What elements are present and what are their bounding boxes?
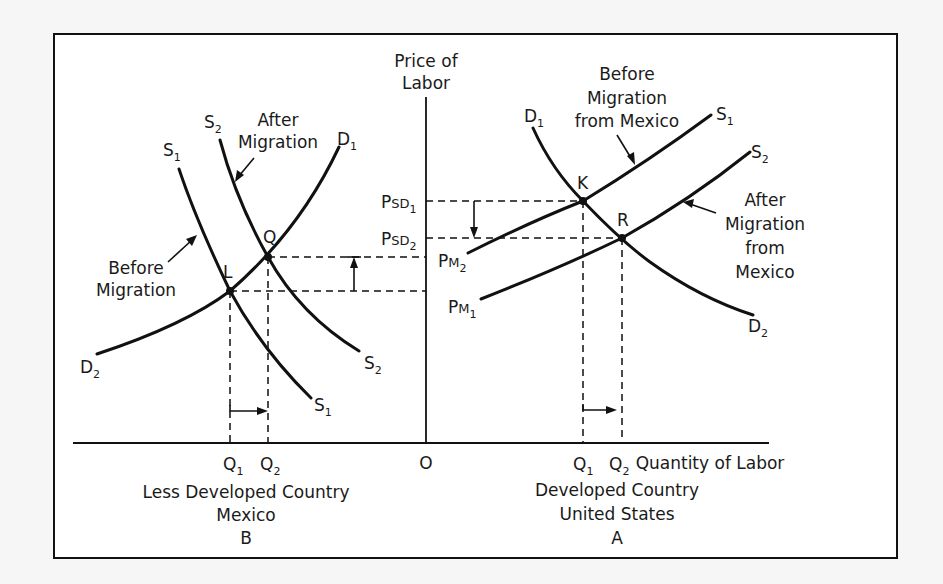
right-country-line1: Developed Country — [535, 480, 699, 500]
right-after-label-line3: from — [745, 238, 785, 258]
point-q — [264, 253, 272, 261]
right-after-label-line2: Migration — [725, 214, 805, 234]
right-before-label-line3: from Mexico — [575, 111, 679, 131]
labor-migration-diagram: Price of Labor O Quantity of Labor S1 S2… — [0, 0, 943, 584]
origin-label: O — [419, 453, 432, 473]
point-k — [579, 197, 587, 205]
point-k-label: K — [577, 173, 589, 193]
left-before-label-line1: Before — [108, 258, 164, 278]
point-r-label: R — [617, 210, 629, 230]
left-panel-letter: B — [240, 528, 252, 548]
point-l-label: L — [223, 262, 233, 282]
y-axis-label-line1: Price of — [394, 51, 458, 71]
left-country-line2: Mexico — [216, 505, 275, 525]
left-before-label-line2: Migration — [96, 280, 176, 300]
y-axis-label-line2: Labor — [402, 73, 450, 93]
left-after-label-line1: After — [258, 110, 299, 130]
point-q-label: Q — [263, 227, 276, 247]
point-l — [226, 287, 234, 295]
right-after-label-line1: After — [745, 190, 786, 210]
right-before-label-line1: Before — [599, 64, 655, 84]
right-panel-letter: A — [611, 528, 623, 548]
right-before-label-line2: Migration — [587, 88, 667, 108]
figure-frame — [54, 34, 897, 558]
x-axis-label: Quantity of Labor — [636, 453, 785, 473]
right-after-label-line4: Mexico — [735, 262, 794, 282]
left-after-label-line2: Migration — [238, 132, 318, 152]
right-country-line2: United States — [559, 504, 674, 524]
point-r — [618, 234, 626, 242]
left-country-line1: Less Developed Country — [143, 482, 350, 502]
